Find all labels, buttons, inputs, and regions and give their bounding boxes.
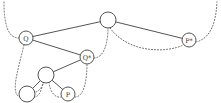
dotted-thread-thread-inner-to-p — [49, 82, 61, 97]
node-circle — [100, 12, 116, 28]
node-label: P — [66, 91, 71, 99]
dotted-thread-thread-qstar-to-root — [94, 28, 108, 58]
tree-diagram: QQ*PP* — [0, 0, 221, 103]
node-q: Q — [19, 31, 33, 45]
tree-nodes: QQ*PP* — [19, 12, 196, 102]
node-label: Q — [23, 35, 28, 43]
dotted-thread-thread-inner-mid — [35, 82, 44, 92]
edge-q-to-qstar — [26, 38, 87, 57]
node-inner — [38, 67, 54, 83]
dotted-thread-thread-root-to-pstar — [110, 28, 183, 50]
node-root — [100, 12, 116, 28]
dotted-thread-thread-pstar-to-topright — [196, 2, 217, 42]
node-circle — [38, 67, 54, 83]
edge-root-to-q — [26, 20, 108, 38]
dotted-thread-thread-p-to-qstar — [75, 64, 87, 97]
dotted-thread-thread-top-left-to-q — [4, 2, 19, 38]
node-leaf-left — [19, 86, 35, 102]
node-p: P — [61, 87, 75, 101]
node-label: Q* — [83, 54, 92, 62]
node-pstar: P* — [182, 33, 196, 47]
node-circle — [19, 86, 35, 102]
edge-root-to-pstar — [108, 20, 189, 40]
node-qstar: Q* — [80, 50, 94, 64]
node-label: P* — [185, 37, 193, 45]
